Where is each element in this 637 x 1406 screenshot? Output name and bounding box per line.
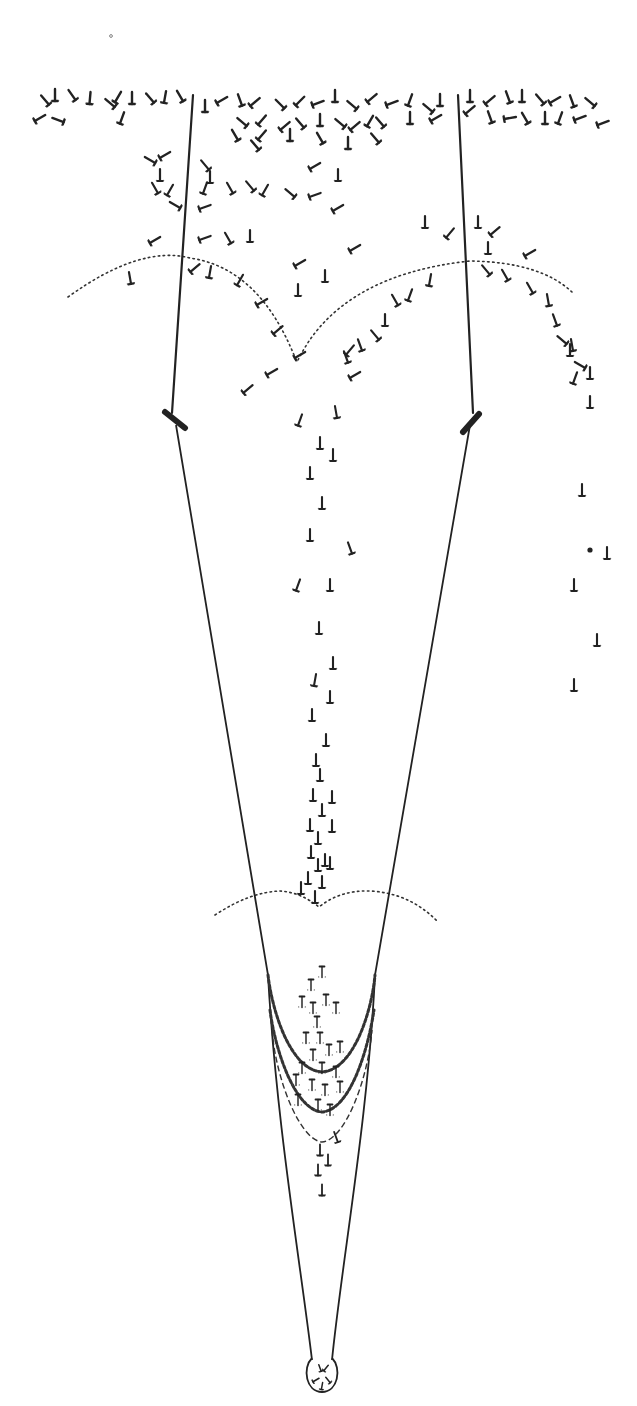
particle-group-upper-scatter	[125, 148, 594, 408]
particle-icon	[523, 281, 536, 296]
particle-icon	[322, 995, 330, 1006]
particle-icon	[318, 497, 326, 509]
particle-group-in-bulb	[311, 1364, 332, 1391]
particle-icon	[315, 622, 323, 634]
particle-icon	[331, 90, 339, 102]
particle-icon	[578, 484, 586, 496]
particle-icon	[466, 90, 474, 102]
particle-icon	[302, 1033, 310, 1044]
particle-icon	[148, 181, 161, 196]
particle-icon	[293, 116, 307, 131]
particle-icon	[503, 113, 516, 123]
particle-icon	[148, 233, 163, 246]
particle-icon	[311, 1376, 320, 1384]
particle-group-descending-column	[292, 405, 356, 903]
particle-icon	[168, 198, 183, 211]
particle-icon	[255, 113, 269, 128]
particle-icon	[326, 579, 334, 591]
particle-icon	[523, 246, 538, 259]
particle-icon	[333, 116, 348, 130]
stray-dot-mark	[110, 35, 113, 38]
particle-icon	[340, 350, 352, 364]
particle-icon	[324, 1155, 332, 1166]
particle-icon	[313, 131, 326, 146]
particle-icon	[498, 268, 511, 283]
particle-icon	[228, 128, 241, 143]
particle-icon	[421, 216, 429, 228]
particle-icon	[474, 216, 482, 228]
particle-icon	[381, 314, 389, 326]
particle-icon	[385, 97, 399, 109]
particle-icon	[308, 189, 322, 201]
particle-icon	[273, 97, 287, 111]
particle-icon	[316, 437, 324, 449]
particle-icon	[206, 171, 214, 183]
particle-icon	[309, 1050, 317, 1061]
particle-icon	[298, 997, 306, 1008]
particle-icon	[348, 241, 363, 254]
particle-icon	[319, 1382, 326, 1390]
particle-icon	[221, 231, 234, 246]
upper-chain	[268, 975, 375, 1072]
particle-icon	[541, 112, 549, 124]
particle-icon	[65, 88, 79, 103]
particle-icon	[286, 129, 294, 141]
particle-icon	[293, 94, 307, 108]
particle-icon	[554, 111, 566, 125]
particle-icon	[283, 186, 298, 200]
particle-icon	[479, 263, 493, 278]
particle-icon	[198, 232, 212, 244]
particle-icon	[294, 413, 306, 427]
particle-icon	[111, 90, 124, 105]
particle-icon	[331, 201, 346, 214]
particle-group-right-stream	[570, 484, 611, 691]
particle-icon	[484, 242, 492, 254]
particle-icon	[143, 91, 157, 106]
particle-icon	[271, 323, 286, 337]
particle-icon	[586, 396, 594, 408]
particle-icon	[388, 293, 401, 308]
particle-icon	[312, 754, 320, 766]
particle-icon	[318, 1185, 326, 1196]
particle-icon	[223, 181, 236, 196]
beaded-chains	[268, 975, 375, 1142]
inner-thin-line	[272, 1030, 372, 1142]
funnel-diagram	[0, 0, 637, 1406]
particle-icon	[188, 261, 203, 275]
particle-icon	[316, 1145, 324, 1156]
particle-icon	[125, 271, 135, 284]
particle-icon	[318, 876, 326, 888]
particle-icon	[348, 119, 363, 133]
particle-icon	[368, 328, 382, 343]
dotted-arcs	[68, 255, 572, 922]
particle-icon	[555, 333, 570, 347]
particle-icon	[316, 1364, 324, 1373]
dark-speck	[587, 547, 592, 552]
particle-icon	[255, 128, 269, 143]
particle-icon	[345, 98, 360, 112]
left-wire	[172, 95, 193, 413]
particle-icon	[308, 709, 316, 721]
particle-icon	[436, 94, 444, 106]
particle-icon	[297, 882, 305, 894]
particle-icon	[292, 578, 304, 592]
particle-icon	[316, 769, 324, 781]
particle-icon	[344, 541, 356, 555]
particle-icon	[324, 1376, 333, 1385]
funnel-outline	[176, 425, 470, 1392]
particle-icon	[593, 634, 601, 646]
particle-icon	[318, 804, 326, 816]
particle-group-trapped-in-funnel	[292, 967, 344, 1116]
left-clip	[165, 412, 185, 428]
particle-icon	[309, 789, 317, 801]
particle-icon	[322, 734, 330, 746]
particle-icon	[311, 891, 319, 903]
particle-icon	[163, 183, 176, 198]
particle-icon	[201, 100, 209, 112]
particle-icon	[314, 832, 322, 844]
particle-icon	[425, 273, 435, 286]
particle-icon	[293, 256, 308, 269]
particle-icon	[326, 691, 334, 703]
particle-icon	[51, 114, 65, 126]
particle-icon	[160, 90, 170, 103]
